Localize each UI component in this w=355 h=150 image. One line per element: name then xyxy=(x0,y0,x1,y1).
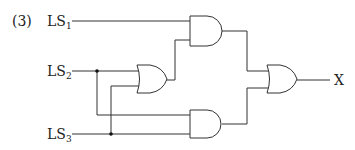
or-gate-2 xyxy=(267,65,297,93)
problem-number: (3) xyxy=(12,13,32,29)
input-label-ls1: LS1 xyxy=(47,13,72,31)
junction-dot-ls3 xyxy=(109,132,113,136)
logic-circuit-diagram: (3) LS1 LS2 LS3 X xyxy=(0,0,355,150)
and-gate-1 xyxy=(190,16,222,46)
input-label-ls2: LS2 xyxy=(47,63,72,81)
or-gate-1 xyxy=(137,65,167,93)
output-label-x: X xyxy=(334,72,344,88)
junction-dot-ls2 xyxy=(95,69,99,73)
and-gate-2 xyxy=(190,110,221,138)
input-label-ls3: LS3 xyxy=(47,126,72,144)
